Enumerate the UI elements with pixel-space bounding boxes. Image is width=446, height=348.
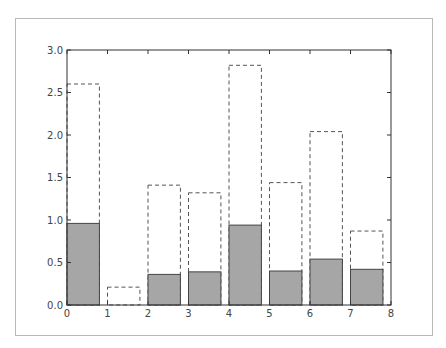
x-tick-label: 6 (307, 308, 313, 319)
filled-bars (67, 223, 383, 305)
x-tick-label: 2 (145, 308, 151, 319)
x-tick-label: 8 (388, 308, 394, 319)
dashed-bar (108, 287, 140, 305)
x-tick-label: 1 (104, 308, 110, 319)
y-tick-label: 0.0 (47, 300, 63, 311)
x-tick-label: 0 (64, 308, 70, 319)
filled-bar (189, 272, 221, 305)
y-tick-label: 3.0 (47, 45, 63, 56)
filled-bar (310, 259, 342, 305)
x-tick-label: 4 (226, 308, 232, 319)
y-tick-label: 1.5 (47, 172, 63, 183)
y-tick-label: 2.5 (47, 87, 63, 98)
y-tick-label: 1.0 (47, 215, 63, 226)
x-tick-label: 5 (266, 308, 272, 319)
filled-bar (270, 271, 302, 305)
filled-bar (229, 225, 261, 305)
filled-bar (148, 274, 180, 305)
y-tick-label: 0.5 (47, 257, 63, 268)
x-tick-label: 3 (185, 308, 191, 319)
bar-chart: 0.00.51.01.52.02.53.0 012345678 (0, 0, 446, 348)
x-tick-label: 7 (347, 308, 353, 319)
filled-bar (351, 269, 383, 305)
y-tick-label: 2.0 (47, 130, 63, 141)
filled-bar (67, 223, 99, 305)
